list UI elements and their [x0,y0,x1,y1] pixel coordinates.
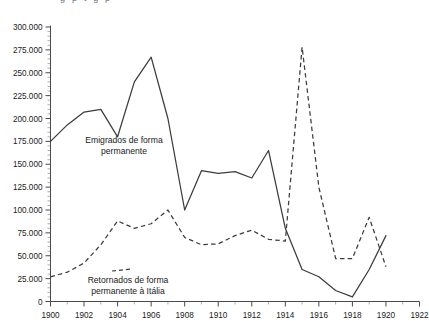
series-emigrados-line [51,57,386,297]
y-tick-label: 200.000 [13,115,43,124]
x-tick-label: 1916 [310,311,329,320]
series-annotations: Emigrados de formapermanenteRetornados d… [85,135,168,296]
emigrados-label-line: permanente [101,146,147,156]
x-tick-label: 1920 [377,311,396,320]
x-tick-label: 1910 [209,311,228,320]
y-axis-tick-labels: 025.00050.00075.000100.000125.000150.000… [13,23,43,307]
cropped-caption-text: g p t g p [0,0,429,3]
retornados-legend-dash-icon [112,269,132,271]
retornados-label-line: permanente à Itália [91,286,165,296]
emigrados-label: Emigrados de formapermanente [85,135,163,156]
retornados-label-line: Retornados de forma [88,275,169,285]
y-tick-label: 75.000 [17,229,42,238]
x-tick-label: 1912 [243,311,262,320]
x-tick-label: 1904 [108,311,127,320]
chart-container: g p t g p 025.00050.00075.000100.000125.… [0,0,429,322]
x-axis-tick-labels: 1900190219041906190819101912191419161918… [41,311,429,320]
y-tick-label: 225.000 [13,92,43,101]
y-tick-label: 150.000 [13,160,43,169]
y-tick-label: 100.000 [13,206,43,215]
x-tick-label: 1906 [142,311,161,320]
x-tick-label: 1918 [343,311,362,320]
y-tick-label: 50.000 [17,252,42,261]
y-tick-label: 175.000 [13,137,43,146]
y-tick-label: 275.000 [13,46,43,55]
x-tick-label: 1914 [276,311,295,320]
line-chart: 025.00050.00075.000100.000125.000150.000… [0,0,429,322]
retornados-label: Retornados de formapermanente à Itália [88,275,169,296]
series-retornados-line [51,47,386,277]
x-tick-label: 1900 [41,311,60,320]
x-tick-label: 1922 [410,311,429,320]
y-axis-ticks [46,27,51,302]
emigrados-label-line: Emigrados de forma [85,135,163,145]
y-tick-label: 125.000 [13,183,43,192]
y-tick-label: 0 [38,298,43,307]
y-tick-label: 25.000 [17,275,42,284]
x-axis-ticks [51,302,420,307]
x-tick-label: 1908 [176,311,195,320]
cropped-caption-above-chart: g p t g p [0,0,429,5]
y-tick-label: 250.000 [13,69,43,78]
y-tick-label: 300.000 [13,23,43,32]
x-tick-label: 1902 [75,311,94,320]
